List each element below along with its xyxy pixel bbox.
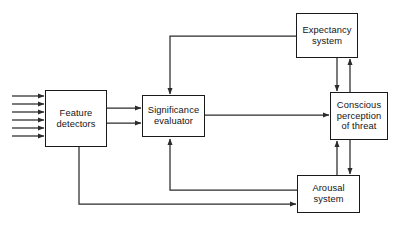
node-feature-detectors-label: Feature detectors xyxy=(54,108,97,130)
edge-arousal-to-significance xyxy=(170,139,297,190)
node-expectancy-system[interactable]: Expectancy system xyxy=(296,13,358,58)
node-conscious-perception-of-threat[interactable]: Conscious perception of threat xyxy=(330,92,388,140)
node-arousal-system-label: Arousal system xyxy=(310,183,346,205)
edge-expectancy-to-significance xyxy=(170,36,296,94)
diagram-canvas: Feature detectors Significance evaluator… xyxy=(0,0,412,227)
node-significance-evaluator-label: Significance evaluator xyxy=(146,105,201,127)
edge-feature-to-arousal xyxy=(79,147,296,204)
node-significance-evaluator[interactable]: Significance evaluator xyxy=(142,95,205,137)
node-feature-detectors[interactable]: Feature detectors xyxy=(45,90,107,147)
node-arousal-system[interactable]: Arousal system xyxy=(297,175,360,213)
node-conscious-perception-of-threat-label: Conscious perception of threat xyxy=(335,100,383,133)
node-expectancy-system-label: Expectancy system xyxy=(300,25,353,47)
